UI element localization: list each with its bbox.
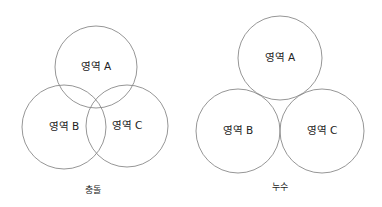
region-c-label: 영역 C [307,124,338,136]
region-c-label: 영역 C [112,119,143,131]
region-b-label: 영역 B [49,120,80,132]
diagram-caption: 충돌 [85,185,101,195]
collision-diagram: 영역 A 영역 B 영역 C 충돌 [22,26,168,195]
region-a-label: 영역 A [81,60,112,72]
venn-diagrams: 영역 A 영역 B 영역 C 충돌 영역 A 영역 B 영역 C 누수 [0,0,382,207]
diagram-caption: 누수 [272,182,288,192]
leak-diagram: 영역 A 영역 B 영역 C 누수 [196,16,364,192]
region-b-label: 영역 B [223,124,254,136]
region-a-label: 영역 A [265,51,296,63]
